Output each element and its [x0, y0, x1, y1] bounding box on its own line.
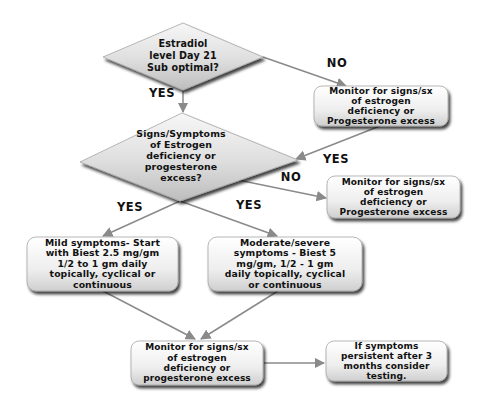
label-estradiol-yes: YES [145, 86, 179, 100]
decision-signs-text: Signs/Symptoms of Estrogen deficiency or… [120, 123, 242, 187]
monitor-top-text: Monitor for signs/sx of estrogen deficie… [314, 86, 448, 126]
label-signs-no: NO [276, 170, 306, 184]
label-monitor-top-yes: YES [319, 152, 353, 166]
monitor-right-text: Monitor for signs/sx of estrogen deficie… [327, 176, 460, 218]
label-estradiol-no: NO [322, 56, 352, 70]
mild-symptoms-text: Mild symptoms- Start with Biest 2.5 mg/g… [27, 237, 178, 291]
persistent-text: If symptoms persistent after 3 months co… [326, 341, 447, 381]
edge-mild-to-monitor-bottom [103, 291, 195, 339]
label-signs-yes-left: YES [113, 200, 147, 214]
label-signs-yes-right: YES [232, 198, 266, 212]
decision-estradiol-text: Estradiol level Day 21 Sub optimal? [133, 33, 233, 79]
edge-moderate-to-monitor-bottom [201, 291, 278, 339]
monitor-bottom-text: Monitor for signs/sx of estrogen deficie… [131, 341, 263, 385]
moderate-symptoms-text: Moderate/severe symptoms - Biest 5 mg/gm… [208, 237, 362, 291]
